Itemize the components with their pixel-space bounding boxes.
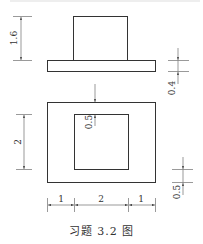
dim-label-bottom-offset: 0.5 <box>172 185 182 200</box>
dim-label-left-width: 1 <box>58 194 64 204</box>
top-view-inner-rect <box>75 115 129 170</box>
figure-caption: 习题 3.2 图 <box>0 222 203 238</box>
front-view-base-plate <box>48 61 156 72</box>
dim-label-upper-height: 1.6 <box>9 31 19 46</box>
dim-label-base-thickness: 0.4 <box>167 81 177 96</box>
dim-label-middle-width: 2 <box>98 194 104 204</box>
front-view-upper-block <box>74 17 128 61</box>
dim-label-top-offset: 0.5 <box>84 115 94 130</box>
technical-drawing: 1.6 0.4 0.5 2 0.5 1 2 1 <box>0 0 203 244</box>
dim-label-right-width: 1 <box>138 194 144 204</box>
dim-label-inner-height: 2 <box>13 139 23 145</box>
